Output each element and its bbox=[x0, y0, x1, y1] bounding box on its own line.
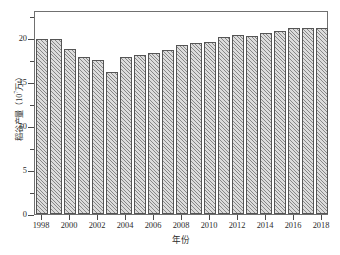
bar bbox=[106, 72, 117, 214]
bar bbox=[204, 42, 215, 214]
bar bbox=[148, 53, 159, 214]
bar bbox=[92, 60, 103, 214]
bar bbox=[162, 50, 173, 214]
bar bbox=[50, 39, 61, 214]
bar bbox=[302, 28, 313, 214]
bar bbox=[218, 37, 229, 214]
y-tick-label: 15 bbox=[1, 79, 27, 87]
bar bbox=[36, 39, 47, 214]
y-tick-label: 0 bbox=[1, 211, 27, 219]
y-tick-major bbox=[28, 215, 34, 216]
bar bbox=[120, 57, 131, 214]
bar bbox=[78, 57, 89, 214]
bar bbox=[288, 28, 299, 214]
bar bbox=[316, 28, 327, 214]
x-axis-title: 年份 bbox=[34, 234, 328, 246]
bar bbox=[190, 43, 201, 214]
bar bbox=[176, 45, 187, 214]
plot-area bbox=[34, 11, 328, 215]
bar bbox=[64, 49, 75, 214]
bars-layer bbox=[35, 12, 327, 214]
bar bbox=[232, 35, 243, 214]
rice-yield-bar-chart: 稻谷产量（107万t） 05101520 1998200020022004200… bbox=[0, 0, 340, 255]
bar bbox=[246, 36, 257, 215]
x-tick-label: 2018 bbox=[304, 220, 338, 231]
y-tick-label: 20 bbox=[1, 35, 27, 43]
bar bbox=[134, 55, 145, 214]
y-tick-label: 10 bbox=[1, 123, 27, 131]
y-axis-tick-labels: 05101520 bbox=[0, 0, 27, 255]
bar bbox=[274, 31, 285, 214]
y-tick-label: 5 bbox=[1, 167, 27, 175]
bar bbox=[260, 33, 271, 214]
